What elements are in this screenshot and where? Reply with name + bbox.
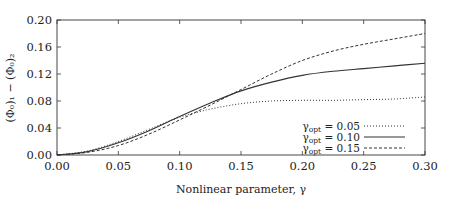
x-tick-label: 0.10 — [167, 159, 193, 173]
legend: γopt = 0.05γopt = 0.10γopt = 0.15 — [303, 120, 405, 156]
y-axis-ticks: 0.000.040.080.120.160.20 — [26, 13, 425, 162]
x-tick-label: 0.20 — [290, 159, 316, 173]
y-tick-label: 0.12 — [26, 67, 52, 81]
x-tick-label: 0.30 — [412, 159, 438, 173]
plot-frame — [57, 20, 425, 155]
y-tick-label: 0.08 — [26, 94, 52, 108]
line-chart: 0.000.050.100.150.200.250.30 0.000.040.0… — [0, 0, 452, 203]
x-axis-label: Nonlinear parameter, γ — [176, 183, 307, 196]
y-tick-label: 0.16 — [26, 40, 52, 54]
series-line-solid — [57, 63, 425, 155]
y-tick-label: 0.04 — [26, 121, 52, 135]
x-tick-label: 0.05 — [106, 159, 132, 173]
series-line-dotted — [57, 97, 425, 155]
x-tick-label: 0.15 — [228, 159, 254, 173]
plot-border — [57, 20, 425, 155]
y-tick-label: 0.20 — [26, 13, 52, 27]
y-axis-label: (Φ₀)₁ − (Φ₀)₂ — [4, 53, 17, 122]
x-axis-ticks: 0.000.050.100.150.200.250.30 — [44, 20, 438, 173]
y-tick-label: 0.00 — [26, 148, 52, 162]
x-tick-label: 0.25 — [351, 159, 377, 173]
